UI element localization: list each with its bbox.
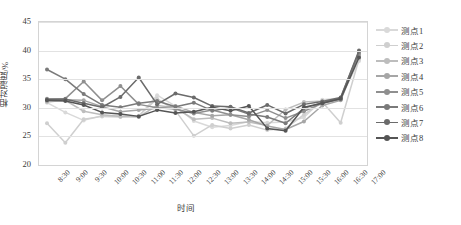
legend-swatch-icon (376, 41, 398, 50)
x-tick-label: 14:30 (277, 168, 295, 186)
legend-item-测点1[interactable]: 测点1 (376, 22, 456, 37)
legend-swatch-icon (376, 87, 398, 96)
legend-item-测点3[interactable]: 测点3 (376, 53, 456, 68)
legend-swatch-icon (376, 133, 398, 142)
legend-item-测点4[interactable]: 测点4 (376, 68, 456, 83)
x-axis-tick-labels: 8:309:009:3010:0010:3011:0011:3012:0012:… (38, 168, 368, 202)
data-point (82, 117, 86, 121)
data-point (45, 121, 49, 125)
data-point (339, 97, 343, 101)
legend-item-测点8[interactable]: 测点8 (376, 130, 456, 145)
data-point (173, 92, 177, 96)
legend-label: 测点1 (401, 24, 423, 36)
data-point (173, 111, 177, 115)
legend-item-测点6[interactable]: 测点6 (376, 99, 456, 114)
legend-marker-dot (384, 42, 390, 48)
legend-swatch-icon (376, 102, 398, 111)
data-point (265, 126, 269, 130)
y-tick-label: 30 (23, 102, 32, 112)
x-tick-label: 13:00 (222, 168, 240, 186)
relative-humidity-line-chart: 相对湿度/% 202530354045 8:309:009:3010:0010:… (0, 0, 461, 225)
x-tick-label: 15:00 (296, 168, 314, 186)
data-point (265, 103, 269, 107)
y-tick-label: 35 (23, 73, 32, 83)
data-point (118, 84, 122, 88)
data-point (210, 123, 214, 127)
data-point (229, 121, 233, 125)
data-point (82, 109, 86, 113)
data-point (100, 98, 104, 102)
x-tick-label: 12:30 (204, 168, 222, 186)
data-point (192, 96, 196, 100)
x-tick-label: 8:30 (56, 168, 72, 184)
x-tick-label: 13:30 (241, 168, 259, 186)
series-lines-group (39, 22, 367, 165)
data-point (357, 55, 361, 59)
data-point (247, 118, 251, 122)
data-point (210, 109, 214, 113)
data-point (229, 113, 233, 117)
x-tick-label: 16:00 (332, 168, 350, 186)
legend-swatch-icon (376, 56, 398, 65)
x-tick-label: 10:00 (112, 168, 130, 186)
x-tick-label: 15:30 (314, 168, 332, 186)
legend-item-测点7[interactable]: 测点7 (376, 114, 456, 129)
x-tick-label: 9:30 (93, 168, 109, 184)
x-tick-label: 16:30 (351, 168, 369, 186)
data-point (284, 129, 288, 133)
legend-item-测点5[interactable]: 测点5 (376, 84, 456, 99)
data-point (302, 120, 306, 124)
data-point (155, 102, 159, 106)
legend-label: 测点4 (401, 70, 423, 82)
gridline (39, 51, 367, 52)
data-point (137, 114, 141, 118)
gridline (39, 79, 367, 80)
gridline (39, 108, 367, 109)
data-point (45, 67, 49, 71)
data-point (82, 92, 86, 96)
data-point (302, 113, 306, 117)
y-tick-label: 25 (23, 130, 32, 140)
y-tick-label: 45 (23, 16, 32, 26)
legend-item-测点2[interactable]: 测点2 (376, 37, 456, 52)
data-point (82, 103, 86, 107)
data-point (320, 101, 324, 105)
legend-label: 测点3 (401, 54, 423, 66)
legend-marker-dot (384, 119, 390, 125)
x-tick-label: 11:30 (167, 168, 185, 186)
legend-marker-dot (384, 27, 390, 33)
legend: 测点1测点2测点3测点4测点5测点6测点7测点8 (376, 22, 456, 145)
data-point (45, 98, 49, 102)
y-tick-label: 40 (23, 45, 32, 55)
data-point (155, 93, 159, 97)
data-point (284, 116, 288, 120)
data-point (63, 141, 67, 145)
legend-marker-dot (384, 73, 390, 79)
y-axis-tick-labels: 202530354045 (0, 0, 36, 187)
legend-label: 测点7 (401, 116, 423, 128)
data-point (284, 121, 288, 125)
x-axis-title: 时间 (0, 201, 461, 213)
x-tick-label: 14:00 (259, 168, 277, 186)
legend-marker-dot (384, 135, 390, 141)
data-point (118, 112, 122, 116)
data-point (229, 109, 233, 113)
legend-marker-dot (384, 58, 390, 64)
data-point (247, 111, 251, 115)
x-tick-label: 11:00 (149, 168, 167, 186)
legend-swatch-icon (376, 25, 398, 34)
series-测点8 (45, 55, 361, 132)
data-point (229, 126, 233, 130)
x-tick-label: 17:00 (369, 168, 387, 186)
data-point (118, 95, 122, 99)
data-point (192, 117, 196, 121)
data-point (192, 110, 196, 114)
legend-marker-dot (384, 104, 390, 110)
data-point (339, 121, 343, 125)
x-tick-label: 10:30 (130, 168, 148, 186)
y-tick-label: 20 (23, 159, 32, 169)
x-axis-title-text: 时间 (177, 201, 195, 213)
data-point (63, 99, 67, 103)
series-测点4 (45, 53, 361, 131)
x-tick-label: 12:00 (185, 168, 203, 186)
